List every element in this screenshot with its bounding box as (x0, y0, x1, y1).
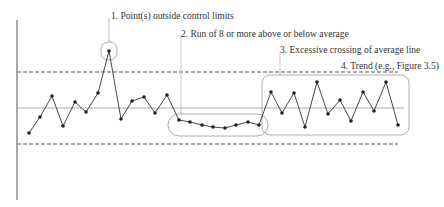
data-point (84, 110, 88, 114)
data-point (372, 109, 376, 113)
data-point (223, 126, 227, 130)
data-point (303, 125, 307, 129)
data-point (315, 80, 319, 84)
data-point (96, 91, 100, 95)
data-point (246, 120, 250, 124)
data-point (396, 123, 400, 127)
data-point (211, 125, 215, 129)
data-point (361, 90, 365, 94)
data-point (107, 49, 111, 53)
data-point (27, 131, 31, 135)
data-point (177, 118, 181, 122)
data-point (349, 119, 353, 123)
data-point (130, 99, 134, 103)
data-point (119, 117, 123, 121)
data-point (165, 93, 169, 97)
annotation-2-label: 2. Run of 8 or more above or below avera… (181, 30, 349, 40)
data-point (73, 100, 77, 104)
data-point (384, 80, 388, 84)
data-point (153, 111, 157, 115)
data-point (257, 123, 261, 127)
annotation-3-label: 3. Excessive crossing of average line (280, 46, 420, 56)
data-point (200, 123, 204, 127)
data-point (338, 98, 342, 102)
data-point (326, 112, 330, 116)
control-chart-diagram: 1. Point(s) outside control limits 2. Ru… (0, 0, 444, 207)
data-point (188, 120, 192, 124)
data-point (38, 115, 42, 119)
annotation-4-label: 4. Trend (e.g., Figure 3.5) (341, 62, 439, 72)
data-point (50, 94, 54, 98)
run-callout-box (168, 114, 268, 136)
data-point (61, 124, 65, 128)
data-point (280, 111, 284, 115)
data-point (269, 90, 273, 94)
annotation-1-label: 1. Point(s) outside control limits (111, 12, 234, 22)
data-point (234, 123, 238, 127)
data-point (142, 95, 146, 99)
data-point (292, 91, 296, 95)
